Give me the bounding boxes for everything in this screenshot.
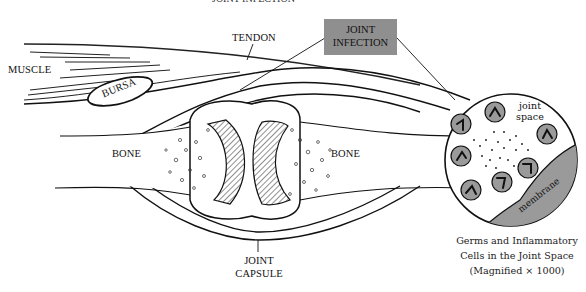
title-fragment: JOINT INFECTION — [212, 0, 295, 4]
caption-line1: Germs and Inflammatory — [448, 233, 586, 248]
label-joint-capsule-line1: JOINT — [229, 254, 289, 267]
label-bone-left: BONE — [112, 148, 141, 159]
callout-line2: INFECTION — [324, 36, 397, 49]
label-joint-space: joint space — [512, 100, 548, 122]
caption-line3: (Magnified × 1000) — [448, 263, 586, 278]
label-tendon: TENDON — [232, 32, 276, 43]
callout-line1: JOINT — [324, 23, 397, 36]
label-muscle: MUSCLE — [8, 64, 51, 75]
inset-caption: Germs and Inflammatory Cells in the Join… — [448, 233, 586, 278]
label-joint-capsule: JOINT CAPSULE — [229, 254, 289, 280]
joint-space-line2: space — [512, 111, 548, 122]
joint-infection-callout: JOINT INFECTION — [324, 19, 397, 55]
label-joint-capsule-line2: CAPSULE — [229, 267, 289, 280]
caption-line2: Cells in the Joint Space — [448, 248, 586, 263]
joint-space-line1: joint — [512, 100, 548, 111]
label-bone-right: BONE — [331, 148, 360, 159]
